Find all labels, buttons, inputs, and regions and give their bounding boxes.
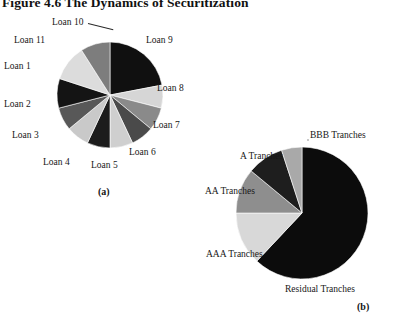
pie-a-label-loan2: Loan 2: [4, 100, 31, 110]
pie-a-label-loan11: Loan 11: [14, 36, 45, 46]
pie-a-label-loan6: Loan 6: [129, 148, 156, 158]
pie-a-label-loan7: Loan 7: [153, 121, 180, 131]
pie-b-label-aaa: AAA Tranches: [206, 250, 263, 260]
pie-a-label-loan10: Loan 10: [52, 18, 83, 28]
pie-b-label-residual: Residual Tranches: [285, 285, 355, 295]
pie-b-label-aa: AA Tranches: [205, 187, 255, 197]
panel-caption-a: (a): [98, 186, 110, 197]
pie-a-label-loan1: Loan 1: [4, 62, 31, 72]
pie-a-label-loan4: Loan 4: [43, 158, 70, 168]
pie-a-label-loan9: Loan 9: [146, 36, 173, 46]
pie-b-label-bbb: BBB Tranches: [310, 131, 366, 141]
pie-a-label-loan5: Loan 5: [91, 161, 118, 171]
pie-b-label-a: A Tranches: [240, 152, 283, 162]
leader-bbb: [308, 140, 309, 141]
pie-a-label-loan8: Loan 8: [157, 84, 184, 94]
pie-a-label-loan3: Loan 3: [12, 131, 39, 141]
panel-caption-b: (b): [357, 301, 369, 312]
